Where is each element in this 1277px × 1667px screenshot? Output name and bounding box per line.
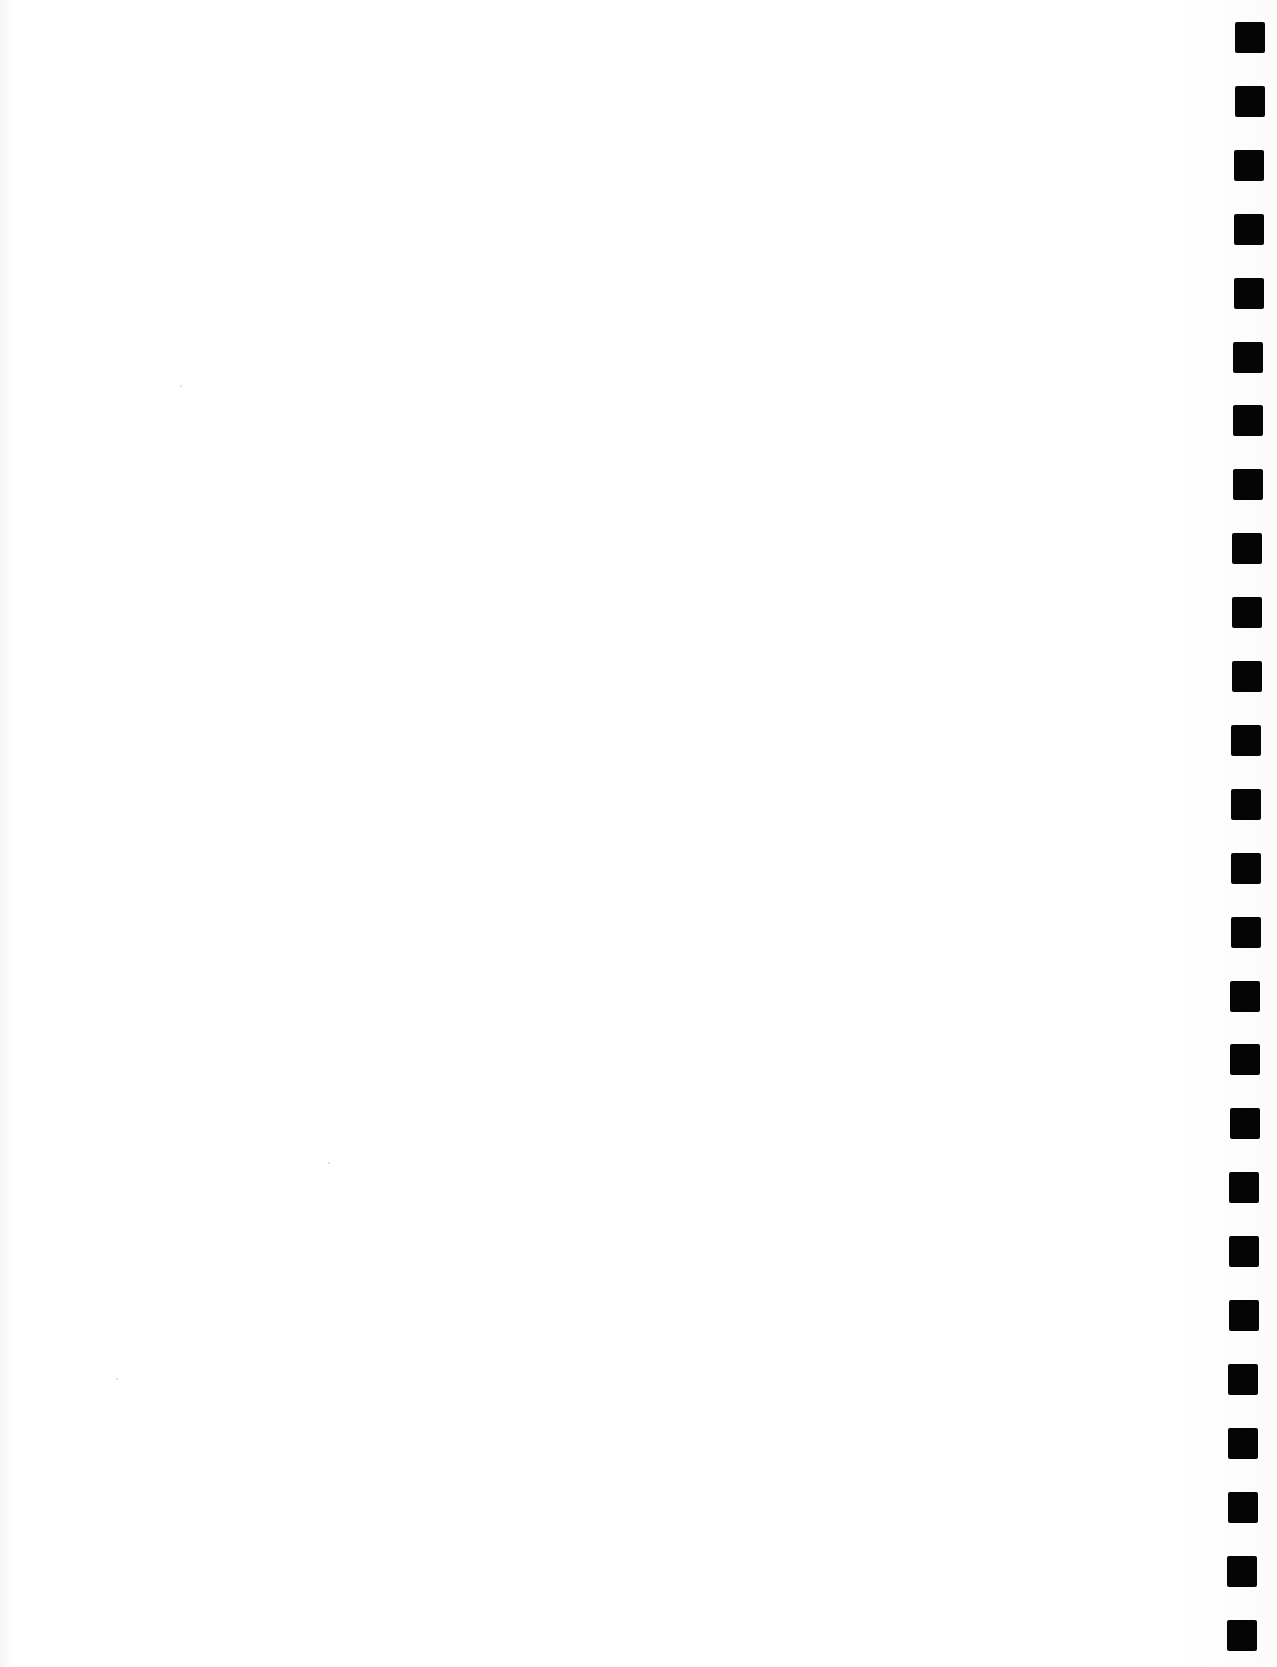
binding-hole-mark [1231, 725, 1261, 756]
binding-hole-mark [1227, 1620, 1257, 1651]
scan-speck [328, 1162, 330, 1164]
binding-hole-mark [1230, 1044, 1260, 1075]
binding-hole-mark [1230, 981, 1260, 1012]
binding-hole-mark [1228, 1364, 1258, 1395]
binding-hole-mark [1231, 917, 1261, 948]
binding-hole-mark [1232, 661, 1262, 692]
binding-hole-mark [1227, 1556, 1257, 1587]
binding-hole-mark [1234, 214, 1264, 245]
binding-hole-mark [1234, 278, 1264, 309]
binding-hole-mark [1231, 789, 1261, 820]
binding-hole-mark [1235, 22, 1265, 53]
binding-hole-mark [1235, 86, 1265, 117]
binding-hole-mark [1228, 1492, 1258, 1523]
binding-hole-mark [1234, 150, 1264, 181]
binding-hole-mark [1232, 533, 1262, 564]
scan-speck [180, 385, 182, 387]
scanned-page [0, 0, 1277, 1667]
scan-speck [116, 1378, 118, 1380]
binding-hole-mark [1231, 853, 1261, 884]
binding-hole-mark [1229, 1236, 1259, 1267]
binding-hole-mark [1233, 342, 1263, 373]
binding-hole-mark [1230, 1108, 1260, 1139]
binding-hole-mark [1229, 1172, 1259, 1203]
page-body [60, 40, 1160, 1620]
binding-hole-mark [1232, 597, 1262, 628]
binding-hole-mark [1233, 405, 1263, 436]
binding-hole-mark [1229, 1300, 1259, 1331]
binding-hole-mark [1228, 1428, 1258, 1459]
binding-hole-mark [1233, 469, 1263, 500]
